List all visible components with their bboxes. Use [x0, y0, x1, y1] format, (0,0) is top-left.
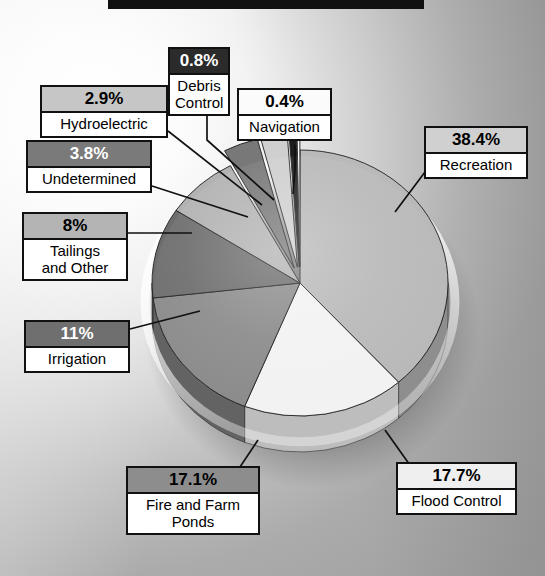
callout-navigation-percent: 0.4% [239, 90, 330, 116]
callout-undetermined-percent: 3.8% [28, 142, 150, 168]
callout-flood-control-label: Flood Control [398, 490, 515, 513]
callout-tailings-percent: 8% [24, 214, 126, 240]
callout-fire-farm-ponds[interactable]: 17.1% Fire and Farm Ponds [126, 466, 260, 535]
callout-undetermined-label: Undetermined [28, 168, 150, 191]
callout-debris-control-label: Debris Control [170, 75, 228, 114]
callout-hydroelectric[interactable]: 2.9% Hydroelectric [40, 85, 168, 138]
callout-tailings-label: Tailings and Other [24, 240, 126, 279]
callout-navigation-label: Navigation [239, 116, 330, 139]
callout-hydroelectric-label: Hydroelectric [42, 113, 166, 136]
pie-top-faces [152, 134, 448, 416]
callout-debris-control[interactable]: 0.8% Debris Control [168, 47, 230, 116]
callout-hydroelectric-percent: 2.9% [42, 87, 166, 113]
callout-recreation[interactable]: 38.4% Recreation [424, 126, 528, 179]
callout-irrigation-label: Irrigation [26, 348, 128, 371]
callout-recreation-percent: 38.4% [426, 128, 526, 154]
callout-navigation[interactable]: 0.4% Navigation [237, 88, 332, 141]
callout-fire-farm-ponds-label: Fire and Farm Ponds [128, 494, 258, 533]
callout-tailings[interactable]: 8% Tailings and Other [22, 212, 128, 281]
callout-recreation-label: Recreation [426, 154, 526, 177]
chart-canvas: 0.8% Debris Control 0.4% Navigation 2.9%… [0, 0, 545, 576]
callout-flood-control[interactable]: 17.7% Flood Control [396, 462, 517, 515]
callout-undetermined[interactable]: 3.8% Undetermined [26, 140, 152, 193]
callout-flood-control-percent: 17.7% [398, 464, 515, 490]
callout-fire-farm-ponds-percent: 17.1% [128, 468, 258, 494]
callout-irrigation[interactable]: 11% Irrigation [24, 320, 130, 373]
callout-debris-control-percent: 0.8% [170, 49, 228, 75]
callout-irrigation-percent: 11% [26, 322, 128, 348]
